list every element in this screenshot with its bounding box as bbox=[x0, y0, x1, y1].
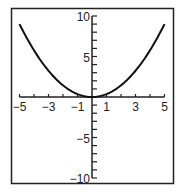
x-tick-label: −1 bbox=[71, 100, 85, 114]
y-tick-label: 5 bbox=[83, 51, 90, 65]
y-tick-label: −10 bbox=[70, 172, 91, 186]
x-tick-label: −5 bbox=[13, 100, 27, 114]
y-tick-label: 10 bbox=[77, 10, 91, 24]
x-tick-label: 3 bbox=[132, 100, 139, 114]
x-tick-label: 1 bbox=[103, 100, 110, 114]
y-tick-label: −5 bbox=[76, 132, 90, 146]
x-tick-label: 5 bbox=[161, 100, 168, 114]
x-tick-label: −3 bbox=[42, 100, 56, 114]
parabola-chart: −5−3−1135 105−5−10 bbox=[0, 0, 181, 192]
